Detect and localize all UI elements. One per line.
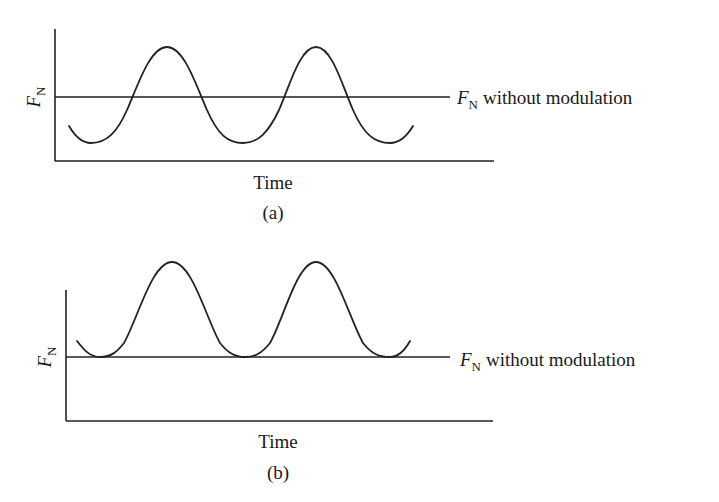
unmodulated-label-a: FNwithout modulation (456, 87, 633, 112)
caption-b: (b) (267, 462, 289, 484)
panel-a: FN FNwithout modulation Time (a) (23, 29, 633, 224)
modulated-wave-b (77, 262, 410, 357)
unmodulated-label-b: FNwithout modulation (459, 349, 636, 374)
x-axis-label-a: Time (253, 172, 292, 193)
panel-b: FN FNwithout modulation Time (b) (34, 262, 636, 484)
y-axis-label-a: FN (23, 86, 48, 109)
x-axis-label-b: Time (258, 431, 297, 452)
figure: FN FNwithout modulation Time (a) FN FNwi… (0, 0, 719, 502)
svg-text:FN: FN (23, 86, 48, 109)
caption-a: (a) (262, 202, 283, 224)
modulated-wave-a (69, 47, 413, 143)
svg-text:FN: FN (34, 346, 59, 369)
y-axis-label-b: FN (34, 346, 59, 369)
